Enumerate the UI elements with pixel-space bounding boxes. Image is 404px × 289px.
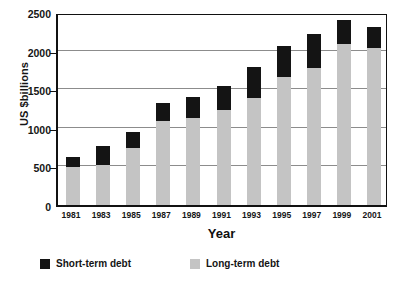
bar-segment-short-term-1999 xyxy=(337,20,351,45)
bar-1991 xyxy=(217,86,231,205)
legend: Short-term debtLong-term debt xyxy=(40,258,360,274)
bar-segment-short-term-1993 xyxy=(247,67,261,98)
debt-stacked-bar-chart: US $billions 05001000150020002500 198119… xyxy=(0,0,404,289)
bar-1993 xyxy=(247,67,261,205)
y-tick-label-2000: 2000 xyxy=(7,47,51,59)
bar-segment-long-term-2001 xyxy=(367,48,381,205)
legend-item-short-term-debt: Short-term debt xyxy=(40,258,131,269)
bar-segment-long-term-1999 xyxy=(337,44,351,205)
bar-segment-long-term-1987 xyxy=(156,121,170,205)
bar-segment-long-term-1985 xyxy=(126,148,140,205)
bar-segment-short-term-1995 xyxy=(277,46,291,77)
legend-swatch-icon xyxy=(190,259,200,269)
bar-segment-short-term-1991 xyxy=(217,86,231,110)
bar-segment-long-term-1993 xyxy=(247,98,261,205)
x-tick-label-2001: 2001 xyxy=(349,210,395,220)
bar-segment-long-term-1981 xyxy=(66,167,80,205)
legend-label: Long-term debt xyxy=(206,258,279,269)
y-tick-label-2500: 2500 xyxy=(7,8,51,20)
bar-segment-short-term-1997 xyxy=(307,34,321,67)
bar-1989 xyxy=(186,97,200,205)
bar-segment-long-term-1997 xyxy=(307,68,321,205)
y-tick-label-1500: 1500 xyxy=(7,85,51,97)
bar-segment-short-term-1987 xyxy=(156,103,170,121)
y-tick-label-500: 500 xyxy=(7,162,51,174)
bar-1995 xyxy=(277,46,291,205)
y-tick-label-1000: 1000 xyxy=(7,124,51,136)
bar-2001 xyxy=(367,27,381,205)
legend-label: Short-term debt xyxy=(56,258,131,269)
bar-1981 xyxy=(66,157,80,205)
bar-segment-short-term-1985 xyxy=(126,132,140,148)
bar-segment-short-term-2001 xyxy=(367,27,381,47)
bar-1997 xyxy=(307,34,321,205)
bar-segment-short-term-1983 xyxy=(96,146,110,165)
bar-segment-short-term-1981 xyxy=(66,157,80,167)
legend-swatch-icon xyxy=(40,259,50,269)
bar-1999 xyxy=(337,20,351,205)
legend-item-long-term-debt: Long-term debt xyxy=(190,258,279,269)
bar-segment-long-term-1991 xyxy=(217,110,231,205)
plot-area xyxy=(56,14,387,207)
bar-1985 xyxy=(126,132,140,205)
bar-1983 xyxy=(96,146,110,205)
bar-1987 xyxy=(156,103,170,205)
bar-segment-long-term-1989 xyxy=(186,118,200,205)
bar-segment-short-term-1989 xyxy=(186,97,200,118)
bar-segment-long-term-1995 xyxy=(277,77,291,205)
x-axis-title: Year xyxy=(56,226,387,241)
y-tick-label-0: 0 xyxy=(7,201,51,213)
bar-segment-long-term-1983 xyxy=(96,165,110,205)
